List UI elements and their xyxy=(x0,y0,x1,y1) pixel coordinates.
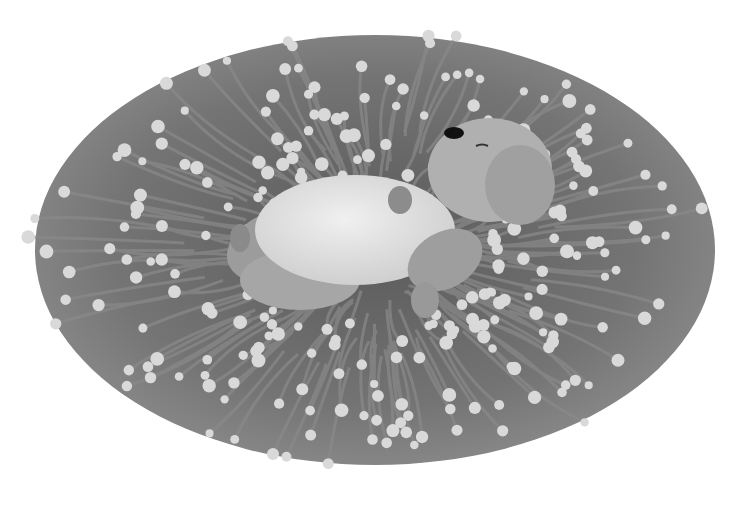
illustration xyxy=(0,0,747,510)
nose xyxy=(444,127,464,139)
